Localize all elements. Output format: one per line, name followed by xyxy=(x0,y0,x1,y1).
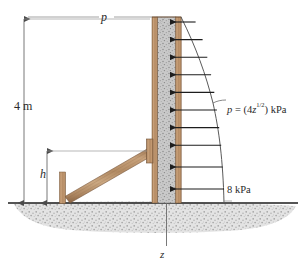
equation-exponent: 1/2 xyxy=(256,102,264,109)
depth-axis-label: z xyxy=(160,249,164,260)
equation-leader-line xyxy=(213,100,226,103)
equation-close-paren: ) xyxy=(265,104,269,115)
equation-units: kPa xyxy=(271,104,287,115)
pressure-symbol-label: p xyxy=(101,11,107,23)
figure-canvas xyxy=(0,0,304,272)
brace-footing-post xyxy=(60,172,66,204)
equation-open-paren: (4 xyxy=(243,104,252,115)
brace-wall-bracket xyxy=(147,139,154,163)
base-pressure-label: 8 kPa xyxy=(227,185,251,196)
pressure-equation-label: p = (4z1/2) kPa xyxy=(227,103,286,115)
equation-lhs: p xyxy=(227,104,232,115)
engineering-figure: 4 m h p z 8 kPa p = (4z1/2) kPa xyxy=(0,0,304,272)
wall-post-left xyxy=(152,17,157,203)
diagonal-brace-assembly xyxy=(60,139,154,204)
ground-soil xyxy=(14,202,296,233)
brace-height-dimension-label: h xyxy=(40,168,46,180)
equation-equals: = xyxy=(235,104,241,115)
height-dimension-label: 4 m xyxy=(14,100,32,112)
